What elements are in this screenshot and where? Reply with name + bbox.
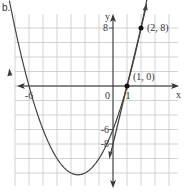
y-tick-label: -6 bbox=[101, 124, 109, 135]
data-point bbox=[139, 26, 144, 31]
y-tick-label: 8 bbox=[103, 22, 108, 33]
point-label: (2, 8) bbox=[147, 22, 169, 34]
data-point bbox=[125, 84, 130, 89]
x-axis-label: x bbox=[176, 89, 181, 100]
y-axis-label: y bbox=[105, 11, 110, 22]
line-down-arrow-icon bbox=[108, 151, 112, 159]
graph: xy-6018-6-8(2, 8)(1, 0) bbox=[0, 0, 185, 192]
parabola-curve bbox=[9, 0, 153, 175]
parabola-arrow-icon bbox=[7, 68, 12, 76]
origin-label: 0 bbox=[105, 90, 110, 101]
line-up-arrow-icon bbox=[143, 3, 148, 10]
point-label: (1, 0) bbox=[133, 71, 155, 83]
